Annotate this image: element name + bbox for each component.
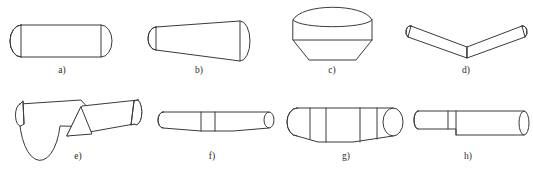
caption-f: f) <box>209 151 216 161</box>
shape-b-tapered-cylinder <box>148 21 250 61</box>
caption-e: e) <box>74 151 82 161</box>
shape-d-v-part <box>406 26 527 58</box>
caption-g: g) <box>342 151 350 161</box>
shape-f-collared-cylinder <box>158 112 274 131</box>
caption-d: d) <box>462 65 470 75</box>
shape-c-domed-cylinder <box>293 7 372 60</box>
caption-a: a) <box>58 65 66 75</box>
caption-b: b) <box>195 65 203 75</box>
caption-h: h) <box>464 151 472 161</box>
shape-b-body <box>148 21 250 61</box>
shape-h-stepped-cylinder <box>414 111 529 135</box>
caption-c: c) <box>328 65 336 75</box>
shape-f-body <box>158 112 274 131</box>
shape-drawing-canvas <box>0 0 533 175</box>
shape-a-cylinder <box>10 25 112 57</box>
shape-d-left-arm <box>406 26 467 58</box>
shape-g-banded-cylinder <box>287 108 403 142</box>
shape-h-body <box>414 111 529 135</box>
shape-a-body <box>10 25 112 57</box>
shape-d-right-arm <box>467 26 527 58</box>
technical-shape-figure: a) b) c) d) e) f) g) h) <box>0 0 533 175</box>
shape-c-body <box>293 7 372 60</box>
